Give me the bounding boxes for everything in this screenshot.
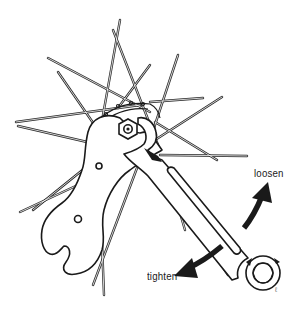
cone-wrench: [41, 116, 162, 275]
hub-wrench-diagram: loosen tighten ℓ: [0, 0, 301, 320]
tighten-arrow-icon: [174, 246, 222, 278]
artist-mark: ℓ: [275, 286, 277, 293]
loosen-label: loosen: [254, 167, 284, 179]
axle-locknut: [119, 119, 137, 139]
loosen-arrow-icon: [244, 182, 272, 228]
tighten-label: tighten: [147, 270, 177, 282]
